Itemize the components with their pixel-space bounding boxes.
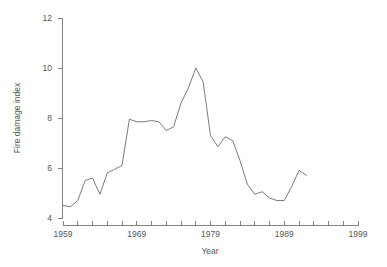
y-tick-label-6: 6 — [47, 163, 52, 173]
fire-damage-index-line — [63, 68, 306, 207]
y-tick-label-4: 4 — [47, 213, 52, 223]
x-tick-label-1969: 1969 — [127, 229, 146, 239]
y-axis-title: Fire damage index — [12, 82, 22, 153]
x-axis-title: Year — [201, 246, 218, 256]
x-tick-label-1999: 1999 — [349, 229, 368, 239]
fire-damage-index-chart: 4681012 Fire damage index 19591969197919… — [0, 0, 387, 267]
y-axis: 4681012 Fire damage index — [12, 13, 63, 223]
y-axis-tick-labels: 4681012 — [43, 13, 53, 223]
y-tick-label-12: 12 — [43, 13, 53, 23]
y-tick-label-10: 10 — [43, 63, 53, 73]
x-tick-label-1979: 1979 — [201, 229, 220, 239]
x-tick-label-1989: 1989 — [275, 229, 294, 239]
x-axis: 19591969197919891999 Year — [54, 221, 368, 257]
x-axis-ticks — [63, 221, 358, 226]
data-series-group — [63, 68, 306, 207]
y-tick-label-8: 8 — [47, 113, 52, 123]
x-tick-label-1959: 1959 — [54, 229, 73, 239]
chart-canvas: 4681012 Fire damage index 19591969197919… — [0, 0, 387, 267]
x-axis-tick-labels: 19591969197919891999 — [54, 229, 368, 239]
y-axis-ticks — [58, 18, 63, 218]
